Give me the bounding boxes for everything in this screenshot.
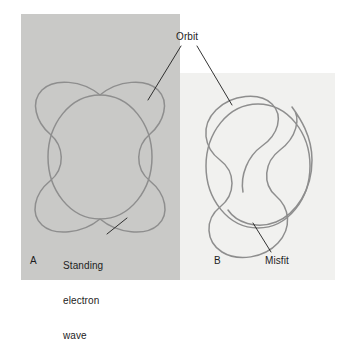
orbit-label: Orbit [176, 31, 198, 43]
panel-a-label: A [30, 255, 37, 267]
standing-wave-line-1: Standing [63, 260, 103, 272]
panel-b [180, 73, 335, 280]
misfit-label: Misfit [265, 255, 289, 267]
standing-wave-line-3: wave [63, 330, 103, 342]
standing-electron-wave-label: Standing electron wave [63, 236, 103, 343]
panel-b-label: B [214, 255, 221, 267]
standing-wave-line-2: electron [63, 295, 103, 307]
